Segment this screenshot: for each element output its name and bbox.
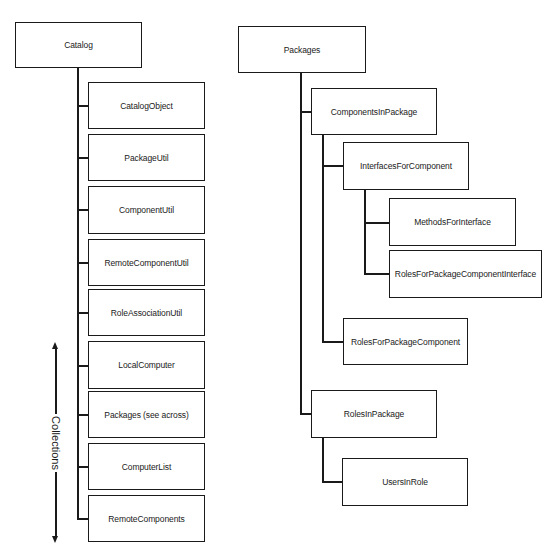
node-label: Catalog [64, 40, 93, 50]
node-label: ComputerList [122, 462, 171, 472]
branch-connector [77, 466, 88, 468]
node-roles-for-package-component: RolesForPackageComponent [343, 318, 468, 365]
node-label: UsersInRole [382, 477, 428, 487]
node-local-computer: LocalComputer [88, 341, 205, 389]
trunk-mask [70, 520, 86, 555]
trunk-tail [77, 505, 79, 520]
node-role-association-util: RoleAssociationUtil [88, 289, 205, 336]
roles-branch-line [322, 437, 324, 482]
node-users-in-role: UsersInRole [342, 458, 468, 506]
branch-connector [77, 312, 88, 314]
node-label: PackageUtil [124, 153, 168, 163]
node-components-in-package: ComponentsInPackage [311, 88, 437, 135]
node-label: RemoteComponentUtil [104, 258, 188, 268]
node-label: ComponentUtil [119, 205, 174, 215]
node-label: MethodsForInterface [414, 217, 491, 227]
node-methods-for-interface: MethodsForInterface [389, 198, 516, 246]
node-label: CatalogObject [120, 101, 173, 111]
node-roles-in-package: RolesInPackage [311, 390, 437, 438]
branch-connector [364, 222, 389, 224]
node-component-util: ComponentUtil [88, 186, 205, 234]
node-label: Packages [284, 45, 321, 55]
interfaces-branch-line [364, 189, 366, 274]
branch-connector [300, 111, 311, 113]
node-remote-component-util: RemoteComponentUtil [88, 239, 205, 286]
node-label: RolesInPackage [344, 409, 405, 419]
branch-connector [322, 481, 342, 483]
node-package-util: PackageUtil [88, 134, 205, 181]
node-computer-list: ComputerList [88, 443, 205, 490]
packages-trunk-line [300, 72, 302, 414]
node-roles-for-package-component-interface: RolesForPackageComponentInterface [389, 250, 542, 298]
packages-root-node: Packages [238, 26, 366, 73]
branch-connector [77, 518, 88, 520]
branch-connector [322, 165, 343, 167]
node-interfaces-for-component: InterfacesForComponent [343, 142, 469, 190]
node-label: ComponentsInPackage [331, 107, 417, 117]
catalog-trunk-line [77, 67, 79, 555]
branch-connector [77, 262, 88, 264]
node-remote-components: RemoteComponents [88, 495, 205, 542]
node-catalog-object: CatalogObject [88, 82, 205, 129]
collections-label: Collections [49, 414, 63, 472]
node-label: RolesForPackageComponentInterface [395, 269, 536, 279]
node-label: InterfacesForComponent [360, 161, 452, 171]
branch-connector [77, 365, 88, 367]
branch-connector [364, 273, 389, 275]
node-label: RolesForPackageComponent [351, 337, 460, 347]
node-label: RemoteComponents [108, 514, 184, 524]
arrow-down-icon [52, 536, 58, 543]
branch-connector [77, 209, 88, 211]
node-label: Packages (see across) [104, 410, 188, 420]
node-label: RoleAssociationUtil [111, 308, 182, 318]
branch-connector [77, 105, 88, 107]
node-label: LocalComputer [118, 360, 174, 370]
branch-connector [300, 413, 311, 415]
catalog-root-node: Catalog [15, 22, 142, 68]
branch-connector [77, 414, 88, 416]
branch-connector [322, 341, 343, 343]
branch-connector [77, 157, 88, 159]
node-packages-see-across: Packages (see across) [88, 391, 205, 438]
